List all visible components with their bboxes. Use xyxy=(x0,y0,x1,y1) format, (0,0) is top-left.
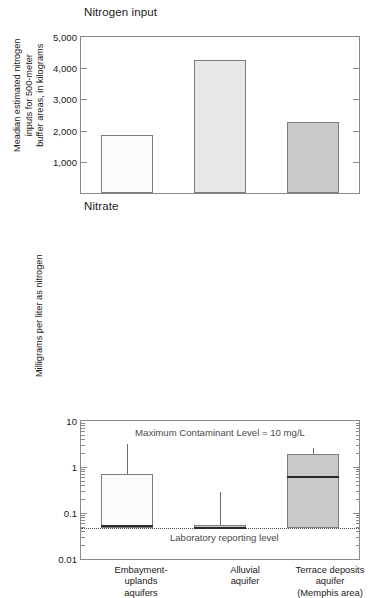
y-tick-minor-left xyxy=(81,537,85,538)
box-median-3 xyxy=(287,476,339,478)
y-tick-label: 10 xyxy=(66,416,77,427)
y-tick-left xyxy=(81,131,87,132)
y-tick-minor-right xyxy=(356,517,360,518)
y-tick-minor-right xyxy=(356,471,360,472)
y-tick-minor-right xyxy=(356,435,360,436)
y-tick-minor-right xyxy=(356,545,360,546)
y-tick-minor-left xyxy=(81,481,85,482)
bar-2 xyxy=(194,60,246,193)
y-tick-left xyxy=(81,68,87,69)
y-tick-minor-right xyxy=(356,520,360,521)
y-tick-minor-right xyxy=(356,531,360,532)
y-tick-left xyxy=(81,467,87,468)
category-label-terrace-deposits: Terrace deposits aquifer (Memphis area) xyxy=(272,564,387,598)
y-tick-minor-right xyxy=(356,499,360,500)
y-tick-minor-left xyxy=(81,431,85,432)
chart-title-nitrogen-input: Nitrogen input xyxy=(84,6,157,18)
y-tick-label: 2,000 xyxy=(53,125,77,136)
y-tick-minor-right xyxy=(356,485,360,486)
box-whisker-upper-2 xyxy=(220,492,221,525)
y-tick-label: 4,000 xyxy=(53,63,77,74)
y-tick-minor-left xyxy=(81,491,85,492)
y-tick-minor-left xyxy=(81,425,85,426)
y-tick-left xyxy=(81,99,87,100)
y-tick-minor-left xyxy=(81,445,85,446)
plot-area-nitrate: Maximum Contaminant Level = 10 mg/L 0.01… xyxy=(80,420,360,560)
y-tick-minor-left xyxy=(81,439,85,440)
y-tick-label: 1,000 xyxy=(53,156,77,167)
y-tick-label: 5,000 xyxy=(53,32,77,43)
y-tick-right xyxy=(353,131,359,132)
y-tick-minor-left xyxy=(81,523,85,524)
y-tick-minor-right xyxy=(356,523,360,524)
y-tick-minor-right xyxy=(356,537,360,538)
box-median-2 xyxy=(194,527,246,529)
bar-3 xyxy=(287,122,339,193)
plot-area-nitrogen-input: 1,0002,0003,0004,0005,000 xyxy=(80,36,360,194)
y-tick-minor-right xyxy=(356,481,360,482)
annotation-laboratory-reporting-level: Laboratory reporting level xyxy=(170,532,279,543)
panel-nitrogen-input: Nitrogen input Meadian estimated nitroge… xyxy=(0,0,387,205)
y-tick-right xyxy=(353,467,359,468)
y-tick-minor-right xyxy=(356,431,360,432)
y-tick-minor-left xyxy=(81,423,85,424)
y-tick-right xyxy=(353,99,359,100)
y-tick-minor-left xyxy=(81,474,85,475)
panel-nitrate: Nitrate Milligrams per liter as nitrogen… xyxy=(0,198,387,431)
y-tick-minor-left xyxy=(81,485,85,486)
y-tick-minor-left xyxy=(81,469,85,470)
y-tick-minor-right xyxy=(356,439,360,440)
y-tick-minor-right xyxy=(356,453,360,454)
annotation-maximum-contaminant-level: Maximum Contaminant Level = 10 mg/L xyxy=(135,427,305,438)
y-tick-minor-left xyxy=(81,428,85,429)
y-tick-minor-right xyxy=(356,474,360,475)
category-label-embayment-uplands: Embayment- uplands aquifers xyxy=(78,564,204,598)
y-tick-right xyxy=(353,162,359,163)
y-tick-minor-right xyxy=(356,425,360,426)
bar-1 xyxy=(101,135,153,193)
y-tick-left xyxy=(81,513,87,514)
box-3 xyxy=(287,454,339,527)
y-tick-minor-left xyxy=(81,499,85,500)
y-tick-minor-left xyxy=(81,515,85,516)
y-tick-minor-left xyxy=(81,471,85,472)
box-1 xyxy=(101,474,153,528)
y-tick-left xyxy=(81,162,87,163)
y-tick-minor-right xyxy=(356,477,360,478)
y-tick-label: 1 xyxy=(72,462,77,473)
y-tick-minor-left xyxy=(81,531,85,532)
y-tick-minor-right xyxy=(356,469,360,470)
y-tick-minor-left xyxy=(81,477,85,478)
y-tick-minor-left xyxy=(81,453,85,454)
y-tick-right xyxy=(353,513,359,514)
y-tick-minor-left xyxy=(81,545,85,546)
y-tick-label: 0.01 xyxy=(58,554,77,565)
y-tick-minor-right xyxy=(356,491,360,492)
y-tick-minor-left xyxy=(81,520,85,521)
y-axis-label-nitrate: Milligrams per liter as nitrogen xyxy=(34,241,46,391)
y-tick-minor-right xyxy=(356,445,360,446)
box-whisker-upper-1 xyxy=(127,444,128,474)
y-tick-label: 3,000 xyxy=(53,94,77,105)
y-tick-minor-right xyxy=(356,428,360,429)
y-tick-minor-left xyxy=(81,435,85,436)
y-axis-label-nitrogen-input: Meadian estimated nitrogen inputs for 50… xyxy=(12,20,47,170)
box-median-1 xyxy=(101,525,153,527)
y-tick-minor-right xyxy=(356,515,360,516)
y-tick-minor-right xyxy=(356,423,360,424)
y-tick-right xyxy=(353,68,359,69)
y-tick-minor-left xyxy=(81,517,85,518)
y-tick-label: 0.1 xyxy=(64,508,77,519)
chart-title-nitrate: Nitrate xyxy=(84,200,119,212)
